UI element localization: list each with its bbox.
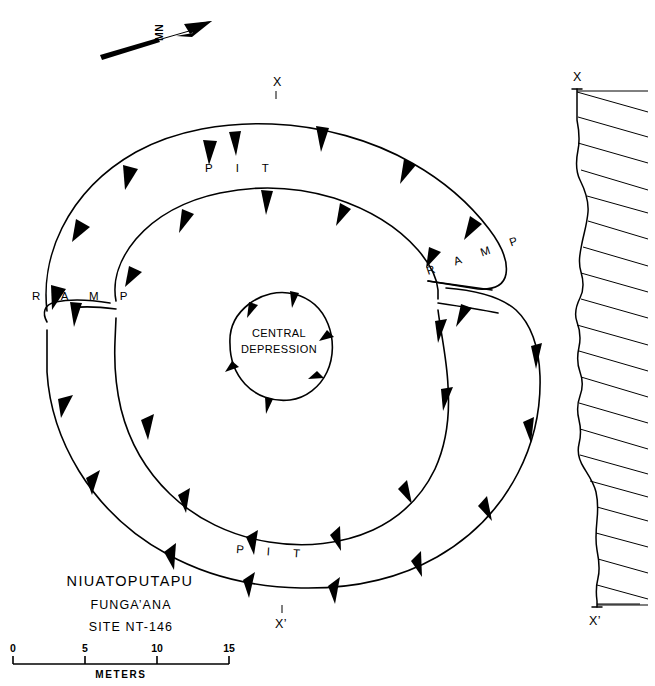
profile-ground-line [576,89,600,607]
ramp-left-label: R A M P [32,290,137,302]
pit-label-top: P I T [205,162,279,174]
central-depression-label-line2: DEPRESSION [241,343,317,355]
outer-rim-hachures [51,126,542,604]
scale-tick-label-0: 0 [10,642,16,654]
title-block: NIUATOPUTAPU FUNGA’ANA SITE NT-146 [67,573,194,634]
section-mark-bottom: X’ [275,605,287,631]
north-arrow-label-group: MN [153,24,165,41]
north-arrow-label: MN [153,24,165,41]
inner-rim-upper [115,188,438,301]
north-arrow-tail [100,38,160,60]
cross-section-profile: X X’ [572,70,648,628]
site-name: NIUATOPUTAPU [67,573,194,589]
scale-units-label: METERS [95,669,146,680]
inner-rim-hachures [125,190,453,555]
profile-label-xprime: X’ [589,614,601,628]
profile-label-x: X [573,70,582,84]
profile-hatching [577,92,648,604]
central-depression-label-line1: CENTRAL [252,327,306,339]
scale-tick-label-5: 5 [82,642,88,654]
ramp-left-hachures [70,302,82,327]
scale-tick-label-10: 10 [151,642,163,654]
ramp-right-label: R A M P [425,232,528,277]
site-number: SITE NT-146 [89,620,173,634]
scale-tick-label-15: 15 [223,642,235,654]
section-mark-top: X [273,75,282,99]
site-plan-figure: MN X X’ [0,0,655,686]
section-label-xprime-plan: X’ [275,617,287,631]
section-label-x-plan: X [273,75,282,89]
pit-label-bottom-group: P I T [236,543,311,560]
locality-name: FUNGA’ANA [90,598,171,612]
ramp-right-label-group: R A M P [425,232,528,277]
scale-bar: 0 5 10 15 METERS [10,642,235,680]
map-canvas: MN X X’ [0,0,655,686]
pit-label-bottom: P I T [236,543,311,560]
